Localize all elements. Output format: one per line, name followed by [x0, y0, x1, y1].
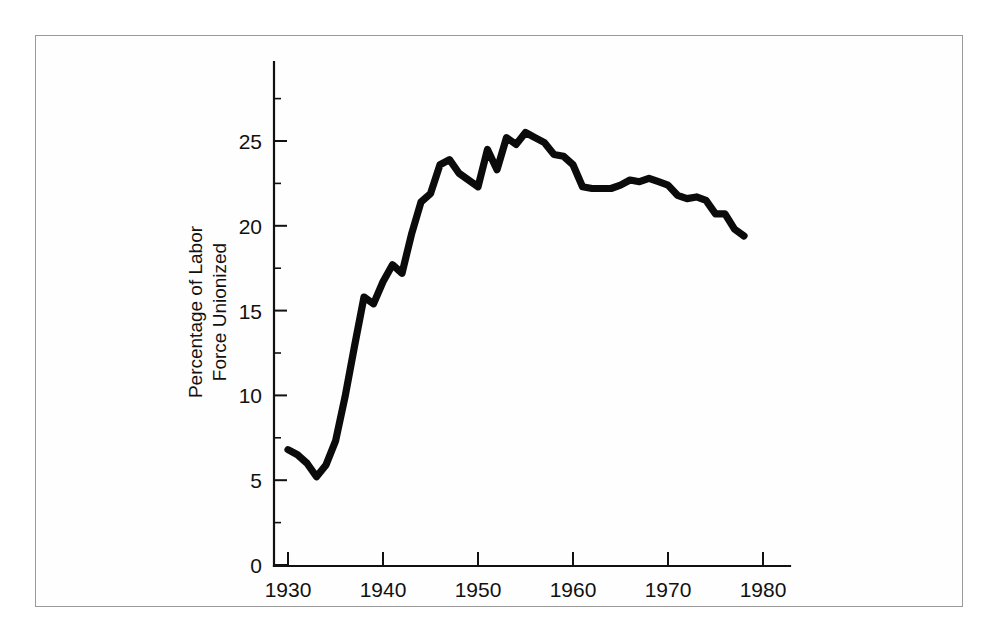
x-axis-major-ticks: [288, 552, 763, 566]
x-tick-label-1940: 1940: [360, 578, 407, 601]
y-axis-title: Percentage of Labor Force Unionized: [185, 225, 230, 398]
line-chart: 0510152025 193019401950196019701980 Perc…: [0, 0, 985, 633]
y-tick-label-15: 15: [239, 300, 262, 323]
x-axis-tick-labels: 193019401950196019701980: [265, 578, 787, 601]
y-tick-label-25: 25: [239, 130, 262, 153]
y-axis-title-line-1: Percentage of Labor: [185, 225, 206, 398]
figure-root: 0510152025 193019401950196019701980 Perc…: [0, 0, 985, 633]
x-tick-label-1960: 1960: [550, 578, 597, 601]
y-tick-label-5: 5: [250, 469, 262, 492]
y-axis-tick-labels: 0510152025: [239, 130, 262, 577]
y-tick-label-20: 20: [239, 215, 262, 238]
x-tick-label-1970: 1970: [645, 578, 692, 601]
data-series-line: [288, 133, 744, 477]
y-axis-title-line-2: Force Unionized: [209, 243, 230, 381]
y-tick-label-10: 10: [239, 384, 262, 407]
x-tick-label-1980: 1980: [740, 578, 787, 601]
x-tick-label-1950: 1950: [455, 578, 502, 601]
x-tick-label-1930: 1930: [265, 578, 312, 601]
y-tick-label-0: 0: [250, 554, 262, 577]
